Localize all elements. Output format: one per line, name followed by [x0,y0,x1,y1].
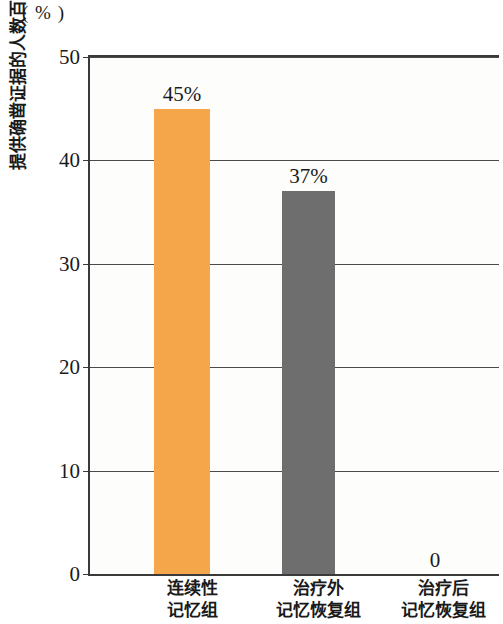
x-category-label-1-line2: 记忆组 [122,600,262,622]
tick-mark-10 [83,471,90,472]
x-category-label-3-line2: 记忆恢复组 [373,600,503,622]
y-tick-label-50: 50 [59,45,80,70]
y-tick-label-40: 40 [59,148,80,173]
gridline-50 [90,57,499,58]
y-tick-label-20: 20 [59,355,80,380]
y-tick-label-30: 30 [59,251,80,276]
y-tick-label-0: 0 [70,562,81,587]
y-tick-label-10: 10 [59,458,80,483]
bar-value-label-1: 45% [163,82,202,107]
x-category-label-1-line1: 连续性 [167,579,218,598]
bar-continuous-memory-group[interactable]: 45% [154,109,210,574]
bar-value-label-3: 0 [430,548,441,573]
x-category-label-2-line1: 治疗外 [293,579,344,598]
tick-mark-0 [83,574,90,575]
x-category-label-3: 治疗后 记忆恢复组 [373,578,503,622]
tick-mark-30 [83,264,90,265]
x-category-label-2: 治疗外 记忆恢复组 [248,578,388,622]
bar-value-label-2: 37% [289,164,328,189]
x-category-label-2-line2: 记忆恢复组 [248,600,388,622]
x-category-label-3-line1: 治疗后 [418,579,469,598]
y-axis-title: 提供确凿证据的人数百分比 [6,0,32,208]
x-category-label-1: 连续性 记忆组 [122,578,262,622]
tick-mark-20 [83,367,90,368]
bar-chart-figure: ( % ) 提供确凿证据的人数百分比 50 40 30 20 10 0 45% … [0,0,503,624]
tick-mark-40 [83,160,90,161]
gridline-40 [90,160,499,161]
bar-out-of-therapy-recovered-memory-group[interactable]: 37% [282,191,335,574]
plot-area: 50 40 30 20 10 0 45% 37% 0 [88,55,499,576]
tick-mark-50 [83,57,90,58]
